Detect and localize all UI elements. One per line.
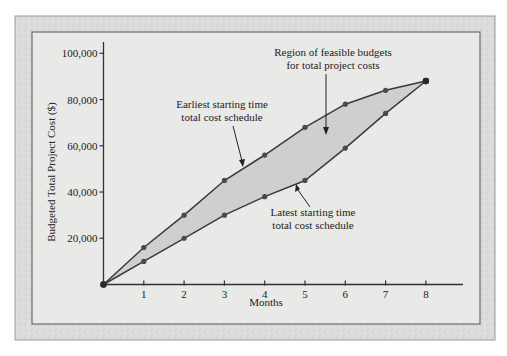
annotation-latest-line1: Latest starting time xyxy=(271,206,356,218)
y-tick-label: 100,000 xyxy=(62,47,98,59)
x-tick-label: 7 xyxy=(383,288,389,300)
data-point-marker xyxy=(100,281,106,287)
annotation-region-line2: for total project costs xyxy=(286,59,379,71)
x-tick-label: 8 xyxy=(423,288,429,300)
x-tick-label: 1 xyxy=(141,288,147,300)
x-tick-label: 6 xyxy=(343,288,349,300)
data-point-marker xyxy=(182,236,187,241)
annotation-earliest-line1: Earliest starting time xyxy=(176,98,268,110)
data-point-marker xyxy=(141,245,146,250)
x-tick-label: 3 xyxy=(222,288,228,300)
y-tick-label: 40,000 xyxy=(67,186,98,198)
data-point-marker xyxy=(343,145,348,150)
x-tick-label: 2 xyxy=(181,288,187,300)
data-point-marker xyxy=(302,178,307,183)
data-point-marker xyxy=(222,178,227,183)
annotation-earliest-line2: total cost schedule xyxy=(181,111,262,123)
data-point-marker xyxy=(423,78,429,84)
data-point-marker xyxy=(343,102,348,107)
annotation-region-line1: Region of feasible budgets xyxy=(274,46,392,58)
data-point-marker xyxy=(383,88,388,93)
data-point-marker xyxy=(141,259,146,264)
y-tick-label: 80,000 xyxy=(67,94,98,106)
x-axis-title: Months xyxy=(249,296,283,308)
x-tick-label: 5 xyxy=(302,288,308,300)
data-point-marker xyxy=(383,111,388,116)
annotation-latest-line2: total cost schedule xyxy=(272,219,353,231)
data-point-marker xyxy=(302,125,307,130)
data-point-marker xyxy=(262,194,267,199)
chart: 20,00040,00060,00080,000100,000 12345678… xyxy=(0,0,507,356)
data-point-marker xyxy=(222,213,227,218)
y-tick-label: 20,000 xyxy=(67,232,98,244)
y-tick-label: 60,000 xyxy=(67,140,98,152)
data-point-marker xyxy=(262,152,267,157)
data-point-marker xyxy=(182,213,187,218)
y-axis-title: Budgeted Total Project Cost ($) xyxy=(45,102,58,242)
